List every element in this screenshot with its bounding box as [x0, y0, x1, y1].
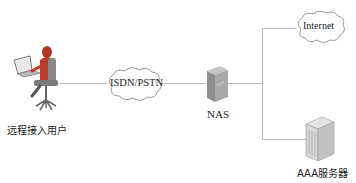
link-bus-to-internet — [262, 28, 296, 29]
vertical-bus — [262, 28, 263, 140]
aaa-server-node — [304, 116, 336, 162]
remote-user-label: 远程接入用户 — [7, 122, 67, 137]
pstn-cloud-node: ISDN/PSTN — [104, 66, 164, 102]
nas-label: NAS — [207, 108, 229, 120]
nas-node: NAS — [204, 65, 230, 103]
pstn-cloud-label: ISDN/PSTN — [110, 77, 163, 88]
link-bus-to-aaa — [262, 139, 306, 140]
internet-cloud-label: Internet — [303, 20, 334, 31]
remote-user-node — [10, 40, 70, 115]
link-nas-to-bus — [228, 83, 262, 84]
user-at-computer-icon — [10, 40, 70, 115]
aaa-server-label: AAA服务器 — [297, 165, 348, 180]
link-pstn-to-nas — [162, 83, 206, 84]
nas-device-icon: NAS — [204, 65, 230, 103]
server-tower-icon — [304, 116, 336, 162]
internet-cloud-node: Internet — [294, 10, 346, 44]
